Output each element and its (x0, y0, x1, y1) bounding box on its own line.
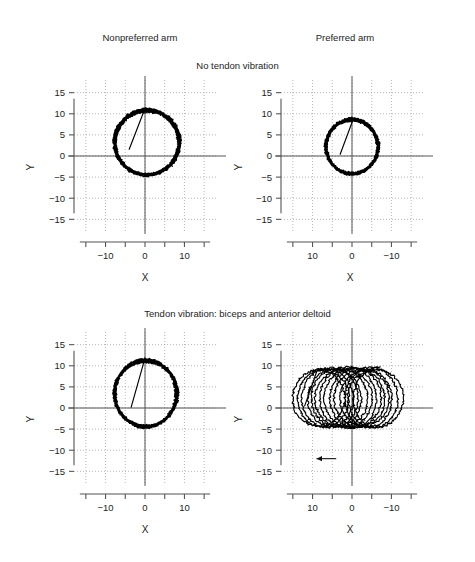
x-tick-label: 0 (349, 502, 354, 513)
y-tick-label: 0 (60, 150, 65, 161)
zero-axes (68, 76, 226, 234)
y-tick-label: 5 (267, 129, 272, 140)
y-tick-label: 5 (60, 129, 65, 140)
axis-title-y-label: Y (25, 416, 36, 423)
y-tick-label: −5 (54, 424, 65, 435)
y-tick-label: 10 (54, 108, 65, 119)
y-tick-label: 10 (261, 108, 272, 119)
row-title-label: Tendon vibration: biceps and anterior de… (144, 308, 330, 319)
y-tick-label: −15 (256, 214, 272, 225)
y-tick-label: 15 (261, 339, 272, 350)
x-tick-label: 10 (179, 250, 190, 261)
y-tick-label: −15 (49, 214, 65, 225)
trajectory-trace (292, 366, 404, 428)
plot-top-right: −15−10−5051015100−10 (235, 70, 447, 262)
axis-title-y-top-right: Y (233, 151, 244, 171)
x-tick-label: 10 (179, 502, 190, 513)
axis-title-x-label: X (347, 524, 354, 535)
axis-title-y-label: Y (233, 164, 244, 171)
y-tick-label: −5 (54, 172, 65, 183)
axis-title-y-bottom-right: Y (233, 403, 244, 423)
zero-axes (68, 328, 226, 486)
axis-title-y-top-left: Y (25, 151, 36, 171)
plot-bottom-right: −15−10−5051015100−10 (235, 322, 447, 514)
x-axis: −10010 (80, 494, 210, 513)
y-tick-label: −5 (261, 424, 272, 435)
y-axis: −15−10−5051015 (256, 339, 281, 477)
x-tick-label: 0 (142, 250, 147, 261)
column-header-label: Preferred arm (316, 32, 375, 43)
y-tick-label: −10 (49, 193, 65, 204)
y-tick-label: −10 (256, 445, 272, 456)
axis-title-x-bottom-right: X (310, 524, 390, 535)
x-tick-label: 0 (142, 502, 147, 513)
y-tick-label: −15 (49, 466, 65, 477)
y-tick-label: 10 (54, 360, 65, 371)
column-header-nonpreferred: Nonpreferred arm (60, 32, 220, 43)
x-tick-label: 10 (307, 250, 318, 261)
x-tick-label: 0 (349, 250, 354, 261)
plot-top-left: −15−10−5051015−10010 (28, 70, 240, 262)
y-tick-label: 15 (54, 87, 65, 98)
drift-arrow (317, 456, 337, 461)
y-tick-label: 0 (60, 402, 65, 413)
axis-title-y-label: Y (25, 164, 36, 171)
axis-title-x-label: X (347, 272, 354, 283)
axis-title-x-bottom-left: X (105, 524, 185, 535)
zero-axes (275, 76, 433, 234)
y-tick-label: 5 (60, 381, 65, 392)
x-axis: −10010 (80, 242, 210, 261)
trajectory-trace (113, 108, 182, 177)
panel-top-right: −15−10−5051015100−10 (235, 70, 447, 262)
row-title-vibration: Tendon vibration: biceps and anterior de… (0, 308, 475, 319)
panel-bottom-right: −15−10−5051015100−10 (235, 322, 447, 514)
y-tick-label: 0 (267, 150, 272, 161)
x-tick-label: −10 (97, 502, 113, 513)
y-tick-label: 10 (261, 360, 272, 371)
axis-title-x-label: X (142, 272, 149, 283)
axis-title-y-bottom-left: Y (25, 403, 36, 423)
arrow-head-icon (317, 456, 323, 461)
y-axis: −15−10−5051015 (256, 87, 281, 225)
column-header-preferred: Preferred arm (265, 32, 425, 43)
x-tick-label: −10 (383, 250, 399, 261)
plot-bottom-left: −15−10−5051015−10010 (28, 322, 240, 514)
axis-title-x-top-right: X (310, 272, 390, 283)
axis-title-x-label: X (142, 524, 149, 535)
y-tick-label: 15 (54, 339, 65, 350)
y-tick-label: 0 (267, 402, 272, 413)
y-tick-label: 5 (267, 381, 272, 392)
y-tick-label: 15 (261, 87, 272, 98)
y-axis: −15−10−5051015 (49, 87, 74, 225)
y-axis: −15−10−5051015 (49, 339, 74, 477)
axis-title-x-top-left: X (105, 272, 185, 283)
panel-bottom-left: −15−10−5051015−10010 (28, 322, 240, 514)
y-tick-label: −10 (49, 445, 65, 456)
y-tick-label: −15 (256, 466, 272, 477)
x-tick-label: −10 (383, 502, 399, 513)
y-tick-label: −10 (256, 193, 272, 204)
x-axis: 100−10 (287, 242, 417, 261)
x-axis: 100−10 (287, 494, 417, 513)
column-header-label: Nonpreferred arm (103, 32, 178, 43)
x-tick-label: −10 (97, 250, 113, 261)
figure-root: Nonpreferred arm Preferred arm No tendon… (0, 0, 475, 562)
axis-title-y-label: Y (233, 416, 244, 423)
x-tick-label: 10 (307, 502, 318, 513)
panel-top-left: −15−10−5051015−10010 (28, 70, 240, 262)
y-tick-label: −5 (261, 172, 272, 183)
trajectory-trace (113, 358, 179, 429)
